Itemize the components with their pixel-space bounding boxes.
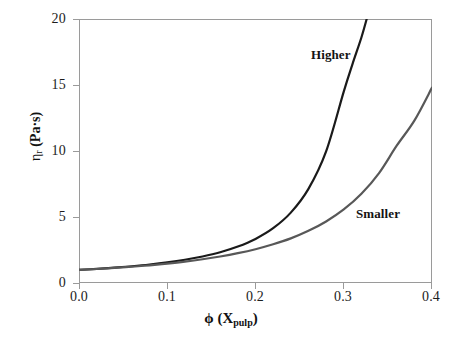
y-tick-mark-10 bbox=[73, 151, 79, 152]
y-axis-title: ηr (Pa·s) bbox=[28, 56, 45, 216]
x-axis-title-open: (X bbox=[214, 310, 234, 326]
x-tick-label-0.2: 0.2 bbox=[235, 290, 275, 304]
y-tick-label-0: 0 bbox=[59, 276, 66, 290]
y-tick-label-15: 15 bbox=[52, 78, 66, 92]
y-tick-mark-15 bbox=[73, 85, 79, 86]
series-annotation-higher: Higher bbox=[311, 47, 351, 63]
y-tick-label-20: 20 bbox=[52, 12, 66, 26]
chart-figure: 0 5 10 15 20 0.0 0.1 0.2 0.3 0.4 ηr (Pa·… bbox=[0, 0, 462, 343]
x-tick-label-0.0: 0.0 bbox=[59, 290, 99, 304]
x-axis-title: ϕ (Xpulp) bbox=[0, 310, 462, 328]
y-axis-title-units: (Pa·s) bbox=[28, 112, 43, 151]
series-line-smaller bbox=[79, 88, 432, 270]
x-tick-label-0.4: 0.4 bbox=[411, 290, 451, 304]
curve-layer bbox=[79, 19, 432, 283]
y-axis-title-subscript: r bbox=[33, 150, 44, 153]
y-tick-mark-5 bbox=[73, 217, 79, 218]
y-tick-mark-20 bbox=[73, 19, 79, 20]
x-tick-label-0.1: 0.1 bbox=[147, 290, 187, 304]
x-axis-title-phi: ϕ bbox=[204, 310, 213, 326]
series-annotation-smaller: Smaller bbox=[356, 206, 400, 222]
y-axis-title-eta: η bbox=[28, 154, 43, 161]
y-tick-label-10: 10 bbox=[52, 144, 66, 158]
x-tick-label-0.3: 0.3 bbox=[323, 290, 363, 304]
x-axis-title-close: ) bbox=[253, 310, 258, 326]
x-axis-title-subscript: pulp bbox=[233, 317, 252, 328]
y-tick-label-5: 5 bbox=[59, 210, 66, 224]
series-curves bbox=[79, 19, 432, 283]
